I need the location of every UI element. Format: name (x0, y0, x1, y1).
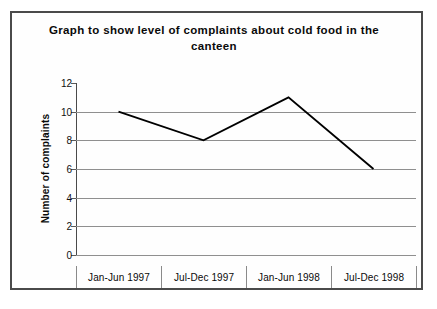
plot-area: 024681012 (76, 83, 416, 255)
x-axis-label-cell: Jan-Jun 1997 (77, 266, 162, 288)
x-axis-label-cell: Jul-Dec 1997 (162, 266, 247, 288)
series-polyline (119, 97, 374, 169)
y-tick-label-4: 4 (38, 192, 72, 203)
chart-frame: Graph to show level of complaints about … (10, 11, 423, 290)
x-axis-category-labels: Jan-Jun 1997Jul-Dec 1997Jan-Jun 1998Jul-… (76, 266, 417, 288)
y-tick-label-8: 8 (38, 135, 72, 146)
x-axis-label-cell: Jan-Jun 1998 (247, 266, 332, 288)
y-tick-label-2: 2 (38, 221, 72, 232)
y-tick-label-12: 12 (38, 78, 72, 89)
y-tick-label-10: 10 (38, 106, 72, 117)
data-line-series (76, 83, 416, 255)
y-tick-label-0: 0 (38, 250, 72, 261)
gridline-0 (76, 255, 416, 256)
x-axis-label-cell: Jul-Dec 1998 (332, 266, 417, 288)
chart-title: Graph to show level of complaints about … (40, 22, 388, 54)
y-tick-label-6: 6 (38, 164, 72, 175)
